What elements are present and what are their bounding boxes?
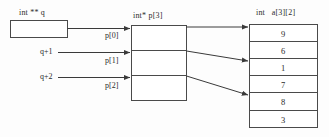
p-arrow-label-2: p[2] (105, 82, 118, 90)
arrow-p2-to-a-row5 (187, 76, 249, 95)
a-cell-5: 3 (249, 116, 317, 125)
a-cell-1: 6 (249, 47, 317, 56)
q-offset-label-2: q+2 (40, 73, 53, 81)
a-cell-0: 9 (249, 30, 317, 39)
q-offset-label-1: q+1 (40, 48, 53, 56)
a-cell-3: 7 (249, 81, 317, 90)
a-cell-2: 1 (249, 64, 317, 73)
q-box (11, 21, 68, 38)
pointer-diagram: int ** q int* p[3] int a[3][2] q+1 q+2 p… (0, 0, 329, 137)
p-arrow-label-0: p[0] (105, 32, 118, 40)
p-box (132, 26, 187, 101)
arrow-p1-to-a-row3 (187, 51, 249, 61)
p-arrow-label-1: p[1] (105, 57, 118, 65)
a-cell-4: 8 (249, 98, 317, 107)
q-block-header: int ** q (19, 9, 45, 17)
a-block-header: int a[3][2] (256, 9, 295, 17)
p-block-header: int* p[3] (133, 12, 163, 20)
